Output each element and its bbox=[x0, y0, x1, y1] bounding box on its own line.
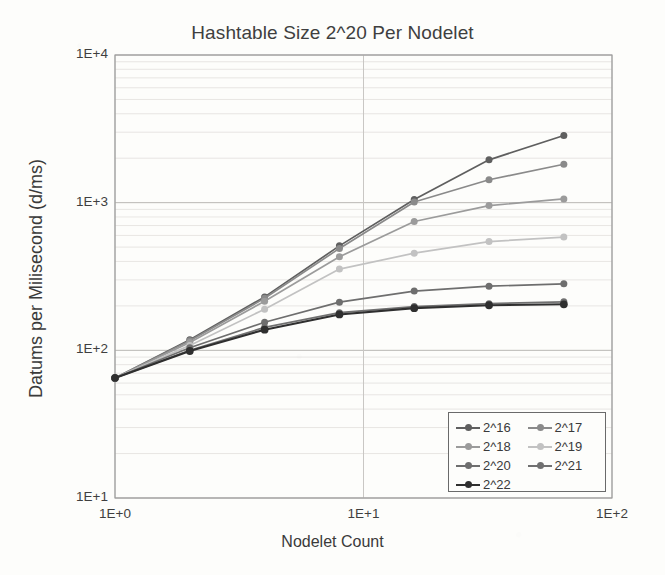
legend-label: 2^16 bbox=[483, 420, 511, 435]
data-point bbox=[336, 253, 343, 260]
legend-item[interactable]: 2^22 bbox=[456, 475, 528, 494]
data-point bbox=[261, 298, 268, 305]
legend-label: 2^19 bbox=[555, 439, 583, 454]
legend-label: 2^22 bbox=[483, 477, 511, 492]
y-tick-label: 1E+1 bbox=[48, 489, 108, 504]
data-point bbox=[186, 347, 194, 355]
x-axis-label: Nodelet Count bbox=[0, 533, 665, 551]
legend-marker-icon bbox=[528, 461, 552, 471]
data-point bbox=[336, 299, 343, 306]
data-point bbox=[411, 288, 418, 295]
data-point bbox=[560, 132, 567, 139]
data-point bbox=[560, 161, 567, 168]
data-point bbox=[486, 156, 493, 163]
data-point bbox=[410, 304, 418, 312]
x-tick-label: 1E+0 bbox=[75, 506, 155, 521]
data-point bbox=[486, 176, 493, 183]
legend-marker-icon bbox=[456, 461, 480, 471]
legend-label: 2^18 bbox=[483, 439, 511, 454]
chart-figure: Hashtable Size 2^20 Per Nodelet 1E+11E+2… bbox=[0, 0, 665, 575]
legend-label: 2^20 bbox=[483, 458, 511, 473]
data-point bbox=[411, 250, 418, 257]
data-point bbox=[111, 374, 119, 382]
series-layer bbox=[111, 132, 568, 382]
legend-marker-icon bbox=[528, 423, 552, 433]
data-point bbox=[560, 280, 567, 287]
y-tick-label: 1E+4 bbox=[48, 46, 108, 61]
series-line bbox=[115, 284, 564, 378]
legend-item[interactable]: 2^17 bbox=[528, 418, 600, 437]
data-point bbox=[336, 311, 344, 319]
y-tick-label: 1E+3 bbox=[48, 194, 108, 209]
legend-item[interactable]: 2^19 bbox=[528, 437, 600, 456]
data-point bbox=[485, 301, 493, 309]
legend-marker-icon bbox=[456, 480, 480, 490]
legend-marker-icon bbox=[456, 442, 480, 452]
data-point bbox=[336, 266, 343, 273]
data-point bbox=[261, 326, 269, 334]
data-point bbox=[560, 300, 568, 308]
legend-marker-icon bbox=[456, 423, 480, 433]
data-point bbox=[411, 218, 418, 225]
x-tick-label: 1E+2 bbox=[572, 506, 652, 521]
legend-item[interactable]: 2^16 bbox=[456, 418, 528, 437]
legend-item[interactable]: 2^21 bbox=[528, 456, 600, 475]
data-point bbox=[560, 195, 567, 202]
data-point bbox=[336, 245, 343, 252]
data-point bbox=[261, 306, 268, 313]
legend: 2^162^172^182^192^202^212^22 bbox=[448, 412, 606, 492]
legend-item[interactable]: 2^18 bbox=[456, 437, 528, 456]
data-point bbox=[560, 234, 567, 241]
y-axis-label: Datums per Milisecond (d/ms) bbox=[26, 129, 47, 429]
legend-label: 2^17 bbox=[555, 420, 583, 435]
data-point bbox=[411, 199, 418, 206]
data-point bbox=[486, 202, 493, 209]
legend-label: 2^21 bbox=[555, 458, 583, 473]
x-tick-label: 1E+1 bbox=[324, 506, 404, 521]
y-tick-label: 1E+2 bbox=[48, 341, 108, 356]
data-point bbox=[486, 283, 493, 290]
legend-marker-icon bbox=[528, 442, 552, 452]
data-point bbox=[486, 238, 493, 245]
legend-item[interactable]: 2^20 bbox=[456, 456, 528, 475]
